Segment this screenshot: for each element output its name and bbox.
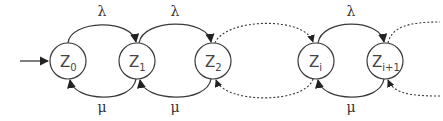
- state-zi: Zi: [298, 43, 334, 79]
- state-transition-diagram: λ λ λ μ μ μ Z0 Z1 Z2 Zi Zi+1: [0, 0, 443, 121]
- edge-zi1-zi: [318, 79, 384, 97]
- mu-label: μ: [346, 99, 355, 115]
- mu-label: μ: [170, 99, 179, 115]
- edge-zi-z2: [216, 79, 313, 98]
- edge-next-zi1: [388, 80, 440, 96]
- state-z2: Z2: [195, 43, 231, 79]
- edge-z0-z1: [68, 25, 136, 43]
- state-z1: Z1: [119, 43, 155, 79]
- lambda-label: λ: [347, 3, 356, 19]
- edge-z1-z0: [70, 79, 136, 97]
- state-zi-plus-1: Zi+1: [367, 43, 403, 79]
- edge-zi1-next: [388, 22, 440, 43]
- edge-z1-z2: [139, 24, 211, 43]
- state-z0: Z0: [50, 43, 86, 79]
- edge-z2-z1: [140, 79, 211, 97]
- edge-zi-zi1: [318, 24, 384, 43]
- mu-label: μ: [97, 99, 106, 115]
- lambda-label: λ: [171, 3, 180, 19]
- edge-z2-zi: [215, 23, 313, 43]
- lambda-label: λ: [98, 3, 107, 19]
